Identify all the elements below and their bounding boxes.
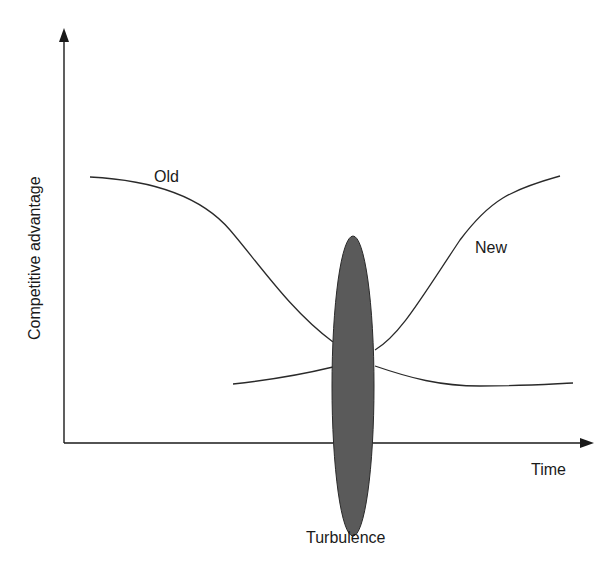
old-curve <box>90 177 333 342</box>
x-axis-label: Time <box>531 461 566 478</box>
new-label: New <box>475 239 507 256</box>
new-curve <box>233 367 333 384</box>
x-axis-arrow-icon <box>580 438 594 448</box>
y-axis-arrow-icon <box>59 28 69 42</box>
turbulence-region <box>332 236 374 536</box>
turbulence-label: Turbulence <box>306 529 386 546</box>
diagram-canvas: Old New Time Turbulence Competitive adva… <box>0 0 615 562</box>
old-label: Old <box>154 168 179 185</box>
new-curve-rise <box>375 176 560 350</box>
old-curve-tail <box>375 366 573 386</box>
y-axis-label: Competitive advantage <box>26 176 43 340</box>
